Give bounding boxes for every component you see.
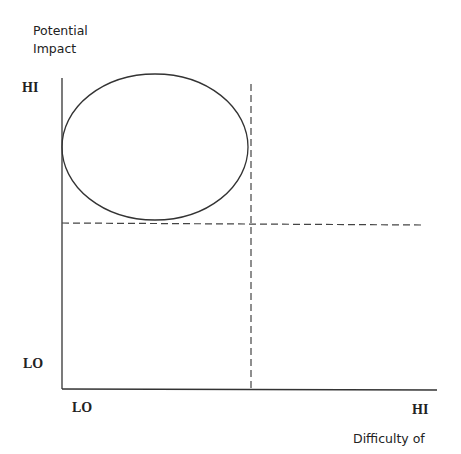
highlight-ellipse <box>62 74 248 220</box>
quadrant-diagram <box>0 0 461 454</box>
x-axis <box>62 389 437 390</box>
horizontal-divider <box>62 223 424 225</box>
